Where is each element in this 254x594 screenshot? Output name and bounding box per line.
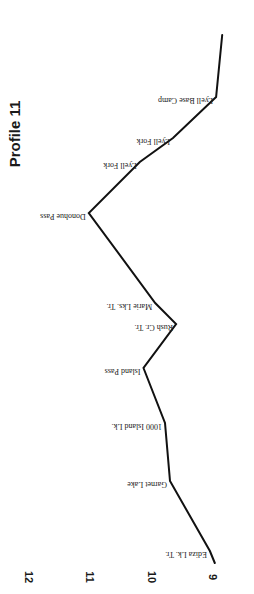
- elevation-profile-chart: Profile 11 9101112 Ediza Lk. Tr.Garnet L…: [0, 0, 254, 594]
- elevation-axis-ticks: 9101112: [23, 571, 220, 583]
- y-tick-label: 12: [23, 571, 35, 583]
- y-tick-label: 9: [207, 574, 219, 580]
- y-tick-label: 11: [84, 571, 96, 583]
- waypoint-label: Lyell Base Camp: [158, 96, 213, 105]
- waypoint-label: Donohue Pass: [40, 212, 86, 221]
- waypoint-label: Lyell Fork: [103, 161, 137, 170]
- waypoint-label: 1000 Island Lk.: [112, 422, 162, 431]
- waypoint-label: Garnet Lake: [127, 480, 167, 489]
- waypoint-label: Lyell Fork: [136, 137, 170, 146]
- waypoint-label: Rush Cr. Tr.: [134, 323, 173, 332]
- waypoint-labels: Ediza Lk. Tr.Garnet Lake1000 Island Lk.I…: [40, 96, 213, 559]
- waypoint-label: Marie Lks. Tr.: [106, 302, 152, 311]
- chart-title: Profile 11: [6, 101, 23, 168]
- waypoint-label: Ediza Lk. Tr.: [165, 550, 207, 559]
- waypoint-label: Island Pass: [105, 367, 141, 376]
- y-tick-label: 10: [146, 571, 158, 583]
